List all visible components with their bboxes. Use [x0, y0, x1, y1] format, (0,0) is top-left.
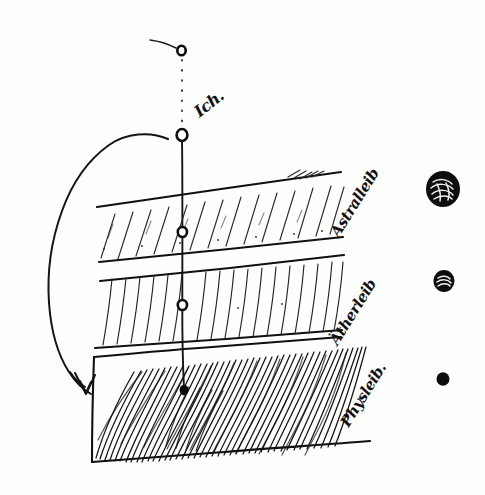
- top-marker-icon: [150, 40, 186, 55]
- layer-physleib: [92, 337, 370, 462]
- layer-astralleib: [97, 170, 344, 262]
- orb-small: [437, 372, 450, 386]
- layer-aetherleib: [95, 255, 344, 348]
- node-astral: [178, 227, 187, 237]
- orb-large: [426, 171, 460, 207]
- node-aether: [178, 300, 187, 310]
- orb-medium: [434, 270, 455, 292]
- node-physical-terminus: [180, 385, 189, 395]
- sketch-canvas: Ich. Astralleib Ätherleib Physleib.: [0, 0, 485, 495]
- axis-solid-segment: [182, 141, 184, 388]
- diagram-svg: [0, 0, 485, 495]
- node-ich: [177, 129, 188, 141]
